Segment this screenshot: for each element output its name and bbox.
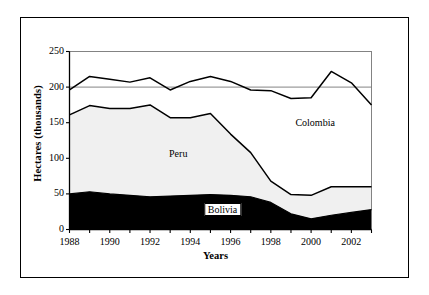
y-tick-label: 250 (34, 45, 64, 56)
x-tick-label: 1988 (50, 236, 90, 247)
x-tick-label: 1994 (170, 236, 210, 247)
series-label-bolivia: Bolivia (204, 203, 241, 216)
x-tick-label: 2002 (331, 236, 371, 247)
y-tick-label: 50 (34, 187, 64, 198)
y-tick-label: 200 (34, 81, 64, 92)
coca-cultivation-stacked-area-chart: Hectares (thousands) Years 0501001502002… (21, 18, 410, 279)
y-tick-label: 150 (34, 116, 64, 127)
x-tick-label: 1990 (90, 236, 130, 247)
series-label-colombia: Colombia (295, 117, 334, 128)
x-tick-label: 1998 (251, 236, 291, 247)
chart-figure-frame: Hectares (thousands) Years 0501001502002… (20, 17, 409, 278)
x-tick-label: 2000 (291, 236, 331, 247)
x-axis-title: Years (21, 250, 410, 261)
x-tick-label: 1992 (130, 236, 170, 247)
x-tick-label: 1996 (211, 236, 251, 247)
series-label-peru: Peru (169, 148, 187, 159)
y-tick-label: 0 (34, 223, 64, 234)
y-tick-label: 100 (34, 152, 64, 163)
